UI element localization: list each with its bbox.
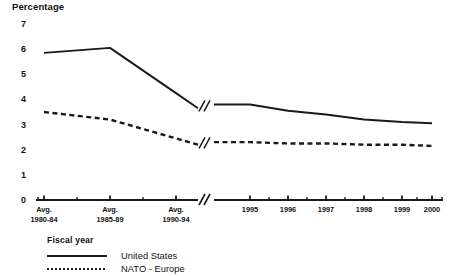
x-tick-line1: Avg. [96,205,123,215]
legend-label-united-states: United States [121,250,177,261]
x-axis-tick-1997: 1997 [318,205,334,215]
x-tick-line2: 1990-94 [162,215,189,225]
series-line-nato-europe-right [214,142,432,146]
x-axis-tick-1995: 1995 [242,205,258,215]
series-line-united-states-right [214,104,432,123]
x-axis-tick-1998: 1998 [356,205,372,215]
x-tick-line1: Avg. [30,205,57,215]
x-tick-line2: 1980-84 [30,215,57,225]
chart-legend: United States NATO - Europe [47,250,347,276]
series-line-nato-europe-left [44,112,198,145]
x-axis-tick-1996: 1996 [280,205,296,215]
legend-item-nato-europe: NATO - Europe [47,263,347,276]
legend-line-dotted-icon [47,268,105,274]
x-axis-tick-2000: 2000 [424,205,440,215]
legend-line-solid-icon [47,255,107,261]
x-axis-tick-1999: 1999 [394,205,410,215]
x-tick-line1: 2000 [424,205,440,215]
chart-container: Percentage 01234567 Avg.1980-84Avg.1985-… [0,0,451,276]
x-tick-line1: 1996 [280,205,296,215]
x-axis-tick-1985-89: Avg.1985-89 [96,205,123,224]
legend-label-nato-europe: NATO - Europe [121,263,185,274]
x-tick-line1: 1998 [356,205,372,215]
x-axis-tick-1990-94: Avg.1990-94 [162,205,189,224]
x-tick-line1: 1997 [318,205,334,215]
series-line-united-states-left [44,48,198,108]
x-tick-line1: 1995 [242,205,258,215]
x-tick-line2: 1985-89 [96,215,123,225]
x-axis-title: Fiscal year [47,235,94,245]
x-axis-tick-1980-84: Avg.1980-84 [30,205,57,224]
legend-item-united-states: United States [47,250,347,263]
x-tick-line1: 1999 [394,205,410,215]
x-tick-line1: Avg. [162,205,189,215]
